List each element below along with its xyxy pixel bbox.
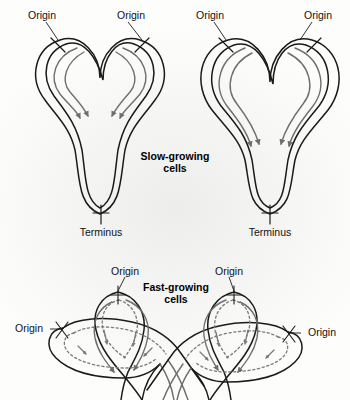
fast-left-outer-forks	[94, 300, 188, 400]
origin-label-slow-right-2: Origin	[304, 9, 332, 21]
terminus-label-slow-left: Terminus	[80, 226, 123, 238]
replication-figure: Origin Origin Origin Origin Terminus Ter…	[0, 0, 350, 400]
origin-label-fast-right-top: Origin	[215, 265, 243, 277]
slow-right-terminus-tick	[262, 205, 278, 224]
fast-right-origin-ticks	[227, 286, 295, 342]
origin-label-fast-right-side: Origin	[308, 326, 336, 338]
origin-label-slow-left-2: Origin	[117, 9, 145, 21]
fast-right-leaders	[229, 277, 301, 333]
fast-right-outer-forks	[163, 300, 258, 400]
slow-right-outer-strands	[201, 39, 339, 214]
fast-growing-caption-line2: cells	[164, 293, 188, 305]
origin-label-slow-left-1: Origin	[28, 9, 56, 21]
terminus-label-slow-right: Terminus	[249, 226, 292, 238]
fast-left-origin-ticks	[56, 286, 126, 338]
slow-left-outer-strands	[36, 39, 165, 214]
slow-left-leaders	[46, 22, 142, 40]
origin-label-fast-left-side: Origin	[15, 322, 43, 334]
slow-left-fork-strands	[54, 48, 146, 118]
fast-right-dotted-loops	[186, 300, 288, 372]
cell-slow-left	[36, 22, 165, 224]
slow-right-fork-strands	[219, 48, 321, 146]
figure-canvas: Origin Origin Origin Origin Terminus Ter…	[0, 0, 350, 400]
slow-right-leaders	[214, 22, 312, 40]
fast-growing-caption-line1: Fast-growing	[143, 281, 209, 293]
slow-left-terminus-tick	[93, 205, 109, 224]
origin-label-slow-right-1: Origin	[196, 9, 224, 21]
slow-growing-caption-line1: Slow-growing	[141, 150, 210, 162]
origin-label-fast-left-top: Origin	[111, 265, 139, 277]
cell-slow-right	[201, 22, 339, 224]
fast-left-dotted-loops	[64, 300, 166, 368]
slow-growing-caption-line2: cells	[163, 162, 187, 174]
fast-left-leaders	[50, 277, 125, 329]
slow-left-origin-ticks	[51, 38, 149, 52]
